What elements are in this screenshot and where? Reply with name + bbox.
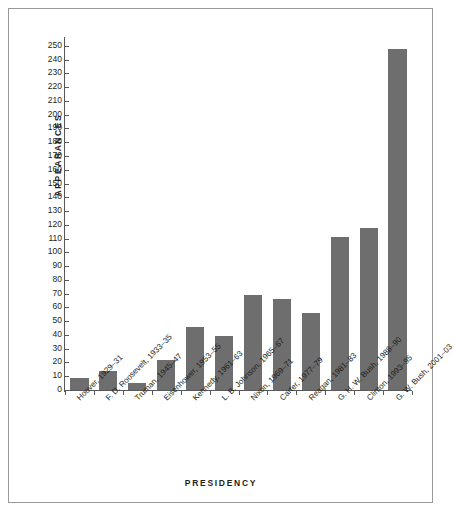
y-tick-label: 120 bbox=[48, 219, 62, 229]
y-tick-label: 90 bbox=[53, 260, 62, 270]
x-axis-title: PRESIDENCY bbox=[0, 478, 442, 488]
y-tick-label: 150 bbox=[48, 178, 62, 188]
y-tick-label: 180 bbox=[48, 136, 62, 146]
y-tick-label: 40 bbox=[53, 329, 62, 339]
x-tick-mark bbox=[267, 391, 268, 395]
y-tick-label: 220 bbox=[48, 81, 62, 91]
y-tick-label: 140 bbox=[48, 191, 62, 201]
y-tick-label: 200 bbox=[48, 109, 62, 119]
y-tick-label: 240 bbox=[48, 54, 62, 64]
x-tick-mark bbox=[123, 391, 124, 395]
x-tick-mark bbox=[65, 391, 66, 395]
x-tick-mark bbox=[152, 391, 153, 395]
y-tick-label: 50 bbox=[53, 315, 62, 325]
y-tick-label: 230 bbox=[48, 67, 62, 77]
y-tick-label: 70 bbox=[53, 288, 62, 298]
y-tick-label: 30 bbox=[53, 343, 62, 353]
x-tick-mark bbox=[239, 391, 240, 395]
y-tick-label: 100 bbox=[48, 246, 62, 256]
y-tick-label: 170 bbox=[48, 150, 62, 160]
y-tick-label: 60 bbox=[53, 301, 62, 311]
y-tick-label: 0 bbox=[57, 384, 62, 394]
y-tick-label: 250 bbox=[48, 40, 62, 50]
x-tick-mark bbox=[210, 391, 211, 395]
x-tick-mark bbox=[94, 391, 95, 395]
y-tick-label: 10 bbox=[53, 370, 62, 380]
x-tick-mark bbox=[383, 391, 384, 395]
y-tick-label: 110 bbox=[48, 233, 62, 243]
x-tick-mark bbox=[354, 391, 355, 395]
x-tick-mark bbox=[296, 391, 297, 395]
y-tick-label: 80 bbox=[53, 274, 62, 284]
x-tick-mark bbox=[325, 391, 326, 395]
y-tick-label: 130 bbox=[48, 205, 62, 215]
y-tick-label: 210 bbox=[48, 95, 62, 105]
y-tick-label: 190 bbox=[48, 122, 62, 132]
x-tick-mark bbox=[181, 391, 182, 395]
y-tick-label: 20 bbox=[53, 356, 62, 366]
bar-series bbox=[65, 39, 412, 390]
x-tick-mark bbox=[412, 391, 413, 395]
y-tick-label: 160 bbox=[48, 164, 62, 174]
